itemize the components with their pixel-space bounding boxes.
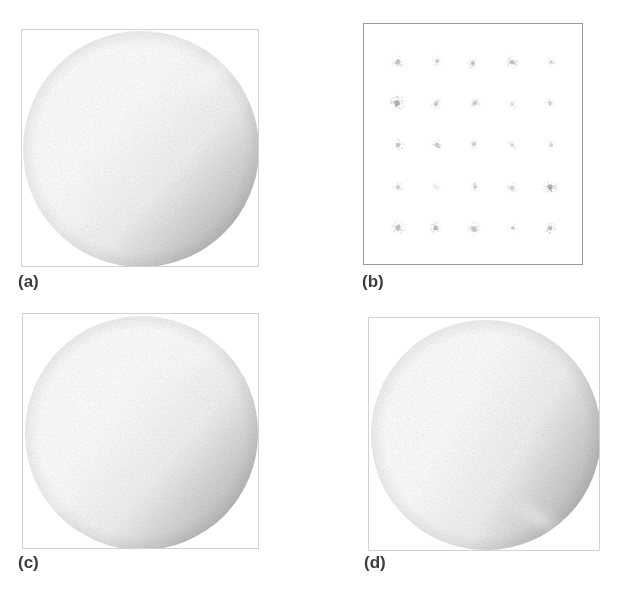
sphere-stage-c — [23, 314, 258, 548]
speckle-blob — [391, 138, 406, 153]
speckle-blob — [543, 96, 557, 110]
speckle-texture — [462, 52, 483, 73]
speckle-texture — [504, 96, 521, 113]
speckle-texture — [387, 93, 407, 113]
speckle-blob — [430, 181, 442, 193]
speckle-grid-b — [364, 24, 582, 264]
sphere-stage-a — [22, 30, 258, 266]
panel-label-b: (b) — [362, 272, 384, 292]
speckle-blob — [504, 180, 519, 195]
speckle-blob — [466, 55, 481, 70]
speckle-texture — [541, 220, 558, 237]
speckle-blob — [429, 97, 443, 111]
speckle-blob — [545, 56, 556, 67]
speckle-blob — [390, 220, 407, 237]
panel-label-a: (a) — [18, 272, 39, 292]
speckle-texture — [388, 51, 408, 71]
speckle-texture — [467, 178, 484, 195]
figure-root: (a)(b)(c)(d) — [0, 0, 622, 591]
speckle-texture — [426, 95, 445, 114]
panel-label-c: (c) — [18, 553, 39, 573]
speckle-texture — [504, 220, 521, 237]
speckle-blob — [504, 54, 519, 69]
speckle-blob — [429, 221, 444, 236]
panel-frame-d — [368, 317, 600, 551]
speckle-texture — [541, 177, 560, 196]
speckle-blob — [392, 180, 405, 193]
speckle-texture — [462, 218, 486, 242]
speckle-texture — [390, 178, 407, 195]
speckle-texture — [465, 93, 485, 113]
panel-b — [363, 23, 583, 265]
speckle-texture — [427, 135, 446, 154]
speckle-texture — [503, 53, 521, 71]
speckle-blob — [507, 222, 519, 234]
speckle-blob — [468, 96, 482, 110]
speckle-blob — [505, 97, 519, 111]
sphere-c — [25, 316, 259, 549]
speckle-blob — [469, 181, 481, 193]
speckle-texture — [388, 135, 409, 156]
panel-c — [22, 313, 259, 549]
sphere-grain-texture — [25, 316, 259, 549]
speckle-texture — [502, 178, 522, 198]
panel-d — [368, 317, 600, 551]
speckle-texture — [427, 219, 446, 238]
speckle-blob — [542, 221, 557, 236]
panel-frame-c — [22, 313, 259, 549]
speckle-texture — [504, 137, 519, 152]
speckle-texture — [386, 216, 410, 240]
sphere-a — [23, 31, 259, 267]
speckle-texture — [542, 136, 560, 154]
speckle-blob — [430, 138, 444, 152]
sphere-grain-texture — [23, 31, 259, 267]
speckle-texture — [543, 54, 558, 69]
speckle-blob — [467, 137, 481, 151]
speckle-blob — [544, 139, 557, 152]
speckle-texture — [465, 135, 483, 153]
speckle-texture — [429, 179, 444, 194]
speckle-blob — [431, 54, 444, 67]
panel-frame-b — [363, 23, 583, 265]
sphere-stage-d — [369, 318, 599, 550]
panel-frame-a — [21, 29, 259, 267]
panel-a — [21, 29, 259, 267]
sphere-grain-texture — [371, 320, 600, 550]
speckle-blob — [541, 178, 558, 195]
speckle-blob — [390, 54, 406, 70]
speckle-blob — [465, 220, 483, 238]
speckle-texture — [540, 93, 560, 113]
speckle-texture — [428, 52, 445, 69]
panel-label-d: (d) — [364, 553, 386, 573]
sphere-d — [371, 320, 600, 550]
speckle-blob — [388, 94, 406, 112]
speckle-blob — [506, 139, 518, 151]
